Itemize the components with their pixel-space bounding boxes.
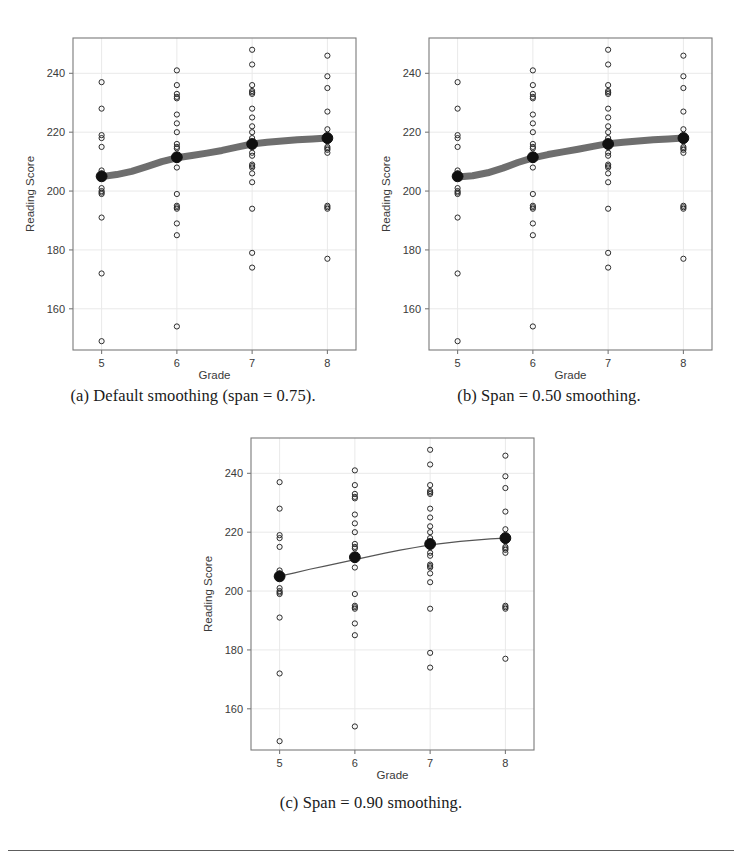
x-axis-tick-label: 7 (427, 757, 433, 769)
x-axis-tick-label: 7 (249, 357, 255, 369)
group-mean-point (171, 152, 182, 163)
y-axis-tick-label: 160 (47, 303, 65, 315)
y-axis-tick-label: 220 (47, 126, 65, 138)
x-axis-tick-label: 6 (352, 757, 358, 769)
data-points (99, 47, 330, 344)
scatter-plot-a: 1601802002202405678GradeReading Score (18, 28, 368, 380)
smoothing-curve (458, 138, 684, 177)
scatter-plot-b: 1601802002202405678GradeReading Score (374, 28, 724, 380)
group-mean-point (452, 171, 463, 182)
figure-panel-b: 1601802002202405678GradeReading Score (b… (374, 28, 724, 420)
y-axis-tick-label: 180 (47, 244, 65, 256)
y-axis-tick-label: 220 (403, 126, 421, 138)
plot-frame (251, 438, 534, 750)
grid-lines (251, 438, 534, 750)
y-axis-tick-label: 240 (225, 467, 243, 479)
group-mean-point (603, 139, 614, 150)
y-axis-tick-label: 160 (403, 303, 421, 315)
y-axis-title: Reading Score (24, 156, 36, 232)
panel-caption-b: (b) Span = 0.50 smoothing. (374, 386, 724, 406)
x-axis-tick-label: 6 (174, 357, 180, 369)
group-mean-point (96, 171, 107, 182)
y-axis-tick-label: 240 (403, 67, 421, 79)
group-mean-point (247, 139, 258, 150)
y-axis-tick-label: 200 (403, 185, 421, 197)
data-points (277, 447, 508, 744)
panel-caption-c: (c) Span = 0.90 smoothing. (196, 793, 546, 813)
smoothing-curve (280, 538, 506, 576)
grid-lines (73, 38, 356, 350)
scatter-plot-c: 1601802002202405678GradeReading Score (196, 428, 546, 780)
group-mean-point (500, 533, 511, 544)
y-axis-tick-label: 220 (225, 526, 243, 538)
plot-area-c: 1601802002202405678GradeReading Score (196, 428, 546, 784)
group-mean-point (678, 133, 689, 144)
x-axis-title: Grade (199, 369, 231, 380)
figure-panel-c: 1601802002202405678GradeReading Score (c… (196, 428, 546, 820)
grid-lines (429, 38, 712, 350)
y-axis-tick-label: 200 (225, 585, 243, 597)
figure-panel-a: 1601802002202405678GradeReading Score (a… (18, 28, 368, 420)
x-axis-tick-label: 6 (530, 357, 536, 369)
y-axis-tick-label: 180 (225, 644, 243, 656)
data-points (455, 47, 686, 344)
group-mean-point (425, 539, 436, 550)
panel-caption-a: (a) Default smoothing (span = 0.75). (18, 386, 368, 406)
figure-page: 1601802002202405678GradeReading Score (a… (0, 0, 742, 863)
y-axis-tick-label: 180 (403, 244, 421, 256)
y-axis-tick-label: 240 (47, 67, 65, 79)
x-axis-tick-label: 5 (455, 357, 461, 369)
y-axis-title: Reading Score (380, 156, 392, 232)
plot-area-b: 1601802002202405678GradeReading Score (374, 28, 724, 384)
x-axis-tick-label: 8 (324, 357, 330, 369)
x-axis-tick-label: 8 (680, 357, 686, 369)
smoothing-curve (102, 138, 328, 177)
x-axis-title: Grade (555, 369, 587, 380)
plot-area-a: 1601802002202405678GradeReading Score (18, 28, 368, 384)
group-mean-point (274, 571, 285, 582)
x-axis-title: Grade (377, 769, 409, 780)
x-axis-tick-label: 5 (99, 357, 105, 369)
y-axis-title: Reading Score (202, 556, 214, 632)
plot-frame (429, 38, 712, 350)
x-axis-tick-label: 5 (277, 757, 283, 769)
group-mean-point (322, 133, 333, 144)
plot-frame (73, 38, 356, 350)
group-mean-point (349, 552, 360, 563)
x-axis-tick-label: 8 (502, 757, 508, 769)
y-axis-tick-label: 200 (47, 185, 65, 197)
page-footer-rule (8, 850, 734, 851)
y-axis-tick-label: 160 (225, 703, 243, 715)
group-mean-point (527, 152, 538, 163)
x-axis-tick-label: 7 (605, 357, 611, 369)
